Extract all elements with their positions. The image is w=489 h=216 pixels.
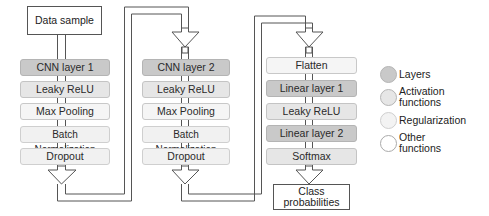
node-leaky-relu-3: Leaky ReLU <box>266 103 357 120</box>
node-label: Linear layer 2 <box>280 127 344 139</box>
legend-label-line: functions <box>399 96 441 108</box>
node-label: Dropout <box>167 150 204 162</box>
input-data-sample-box: Data sample <box>27 6 102 35</box>
node-label: Dropout <box>46 150 83 162</box>
node-leaky-relu-2: Leaky ReLU <box>142 81 230 98</box>
node-batch-norm-1: Batch Normalization <box>20 126 110 143</box>
node-flatten: Flatten <box>266 57 357 74</box>
node-max-pooling-1: Max Pooling <box>20 103 110 120</box>
node-leaky-relu-1: Leaky ReLU <box>20 81 110 98</box>
input-label: Data sample <box>35 14 94 26</box>
node-label: Leaky ReLU <box>157 83 215 95</box>
node-softmax: Softmax <box>266 148 357 165</box>
node-max-pooling-2: Max Pooling <box>142 103 230 120</box>
node-cnn-layer-2: CNN layer 2 <box>142 59 230 76</box>
legend-label: Layers <box>399 69 431 80</box>
node-linear-layer-2: Linear layer 2 <box>266 125 357 142</box>
output-class-probabilities-box: Class probabilities <box>273 184 350 210</box>
legend-swatch-regularization-icon <box>380 112 397 129</box>
output-label-line-2: probabilities <box>274 197 349 208</box>
node-dropout-2: Dropout <box>142 148 230 165</box>
legend-label: Activation functions <box>399 86 445 108</box>
legend-label: Regularization <box>399 115 466 126</box>
legend-swatch-activation-icon <box>380 89 397 106</box>
legend-label: Other functions <box>399 132 441 154</box>
node-label: Linear layer 1 <box>280 82 344 94</box>
node-batch-norm-2: Batch Normalization <box>142 126 230 143</box>
legend-item-regularization: Regularization <box>380 112 466 129</box>
legend-label-line: functions <box>399 142 441 154</box>
node-label: Leaky ReLU <box>283 105 341 117</box>
legend-item-layers: Layers <box>380 66 431 83</box>
node-label: Softmax <box>292 150 331 162</box>
node-label: Leaky ReLU <box>36 83 94 95</box>
node-label: CNN layer 2 <box>157 61 214 73</box>
node-label: Max Pooling <box>157 105 215 117</box>
node-label: Flatten <box>295 59 327 71</box>
legend-swatch-other-icon <box>380 135 397 152</box>
node-cnn-layer-1: CNN layer 1 <box>20 59 110 76</box>
legend-swatch-layers-icon <box>380 66 397 83</box>
legend-item-activation: Activation functions <box>380 86 445 108</box>
node-dropout-1: Dropout <box>20 148 110 165</box>
node-label: Max Pooling <box>36 105 94 117</box>
node-label: CNN layer 1 <box>36 61 93 73</box>
legend-item-other: Other functions <box>380 132 441 154</box>
node-linear-layer-1: Linear layer 1 <box>266 80 357 97</box>
